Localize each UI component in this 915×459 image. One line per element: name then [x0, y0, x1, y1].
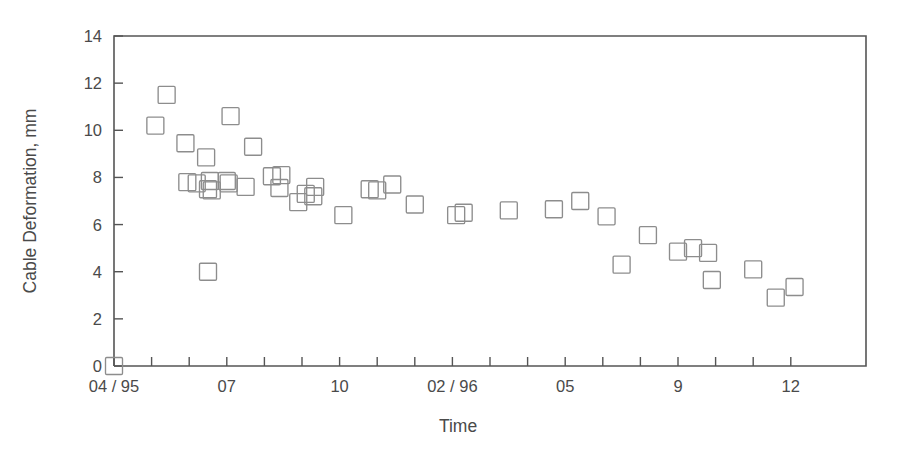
y-tick-label: 4 [93, 263, 102, 281]
y-tick-label: 6 [93, 216, 102, 234]
x-tick-label: 02 / 96 [427, 377, 477, 395]
data-point-marker [767, 289, 784, 306]
data-point-marker [613, 256, 630, 273]
x-axis-tick-labels: 04 / 95071002 / 9605912 [89, 377, 800, 395]
data-point-marker [177, 135, 194, 152]
data-point-marker [545, 201, 562, 218]
y-tick-label: 8 [93, 168, 102, 186]
data-point-marker [198, 149, 215, 166]
x-tick-label: 04 / 95 [89, 377, 139, 395]
y-tick-label: 12 [84, 74, 102, 92]
data-point-marker [158, 86, 175, 103]
data-point-marker [245, 138, 262, 155]
data-point-marker [745, 261, 762, 278]
y-tick-label: 10 [84, 121, 102, 139]
chart-canvas: 02468101214 04 / 95071002 / 9605912 Time… [0, 0, 915, 459]
x-axis-ticks [114, 357, 791, 366]
y-axis-title: Cable Deformation, mm [20, 109, 40, 294]
data-point-marker [639, 227, 656, 244]
data-point-marker [147, 117, 164, 134]
data-point-marker [361, 181, 378, 198]
x-tick-label: 05 [556, 377, 574, 395]
data-point-marker [237, 178, 254, 195]
data-point-marker [572, 193, 589, 210]
data-point-markers [106, 86, 804, 374]
y-tick-label: 2 [93, 310, 102, 328]
y-tick-label: 0 [93, 357, 102, 375]
data-point-marker [263, 168, 280, 185]
data-point-marker [406, 196, 423, 213]
data-point-marker [200, 263, 217, 280]
data-point-marker [222, 108, 239, 125]
x-tick-label: 9 [673, 377, 682, 395]
x-axis-title: Time [439, 416, 477, 436]
data-point-marker [598, 208, 615, 225]
y-tick-label: 14 [84, 27, 102, 45]
x-tick-label: 07 [218, 377, 236, 395]
data-point-marker [500, 202, 517, 219]
y-axis-tick-labels: 02468101214 [84, 27, 102, 375]
x-tick-label: 10 [330, 377, 348, 395]
plot-frame [114, 36, 866, 366]
data-point-marker [703, 271, 720, 288]
plot-border [114, 36, 866, 366]
scatter-chart-figure: 02468101214 04 / 95071002 / 9605912 Time… [0, 0, 915, 459]
data-point-marker [335, 207, 352, 224]
x-tick-label: 12 [782, 377, 800, 395]
y-axis-ticks [114, 36, 123, 366]
data-point-marker [786, 279, 803, 296]
data-point-marker [179, 174, 196, 191]
